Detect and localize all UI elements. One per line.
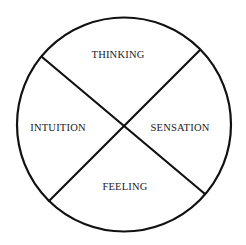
quadrant-label-sensation: SENSATION [151, 122, 210, 133]
quadrant-label-intuition: INTUITION [30, 122, 86, 133]
jung-functions-diagram: THINKING INTUITION SENSATION FEELING [0, 0, 246, 245]
quadrant-label-thinking: THINKING [92, 49, 145, 60]
quadrant-label-feeling: FEELING [102, 181, 147, 192]
